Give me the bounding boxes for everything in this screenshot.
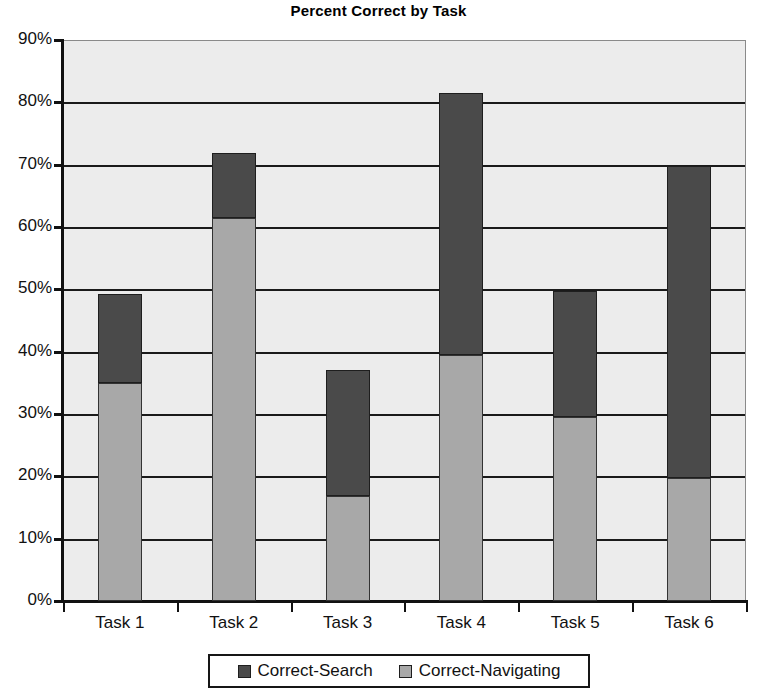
gridline	[64, 539, 745, 541]
x-axis-tick-mark	[63, 601, 65, 612]
y-axis-tick-label: 60%	[0, 216, 52, 236]
y-axis-tick-mark	[54, 600, 63, 603]
bar-segment-correct-search[interactable]	[553, 291, 597, 417]
x-axis-tick-mark	[632, 601, 634, 612]
y-axis-tick-mark	[54, 39, 63, 42]
gridline	[64, 476, 745, 478]
x-axis-category-label: Task 4	[404, 613, 518, 633]
legend-item-correct-search[interactable]: Correct-Search	[238, 661, 373, 681]
bar-segment-correct-navigating[interactable]	[439, 355, 483, 601]
y-axis-tick-label: 10%	[0, 528, 52, 548]
y-axis-tick-label: 0%	[0, 590, 52, 610]
bar-segment-correct-search[interactable]	[212, 153, 256, 218]
x-axis-category-label: Task 6	[632, 613, 746, 633]
gridline	[64, 165, 745, 167]
chart-container: Percent Correct by Task 0%10%20%30%40%50…	[0, 0, 757, 699]
bar-segment-correct-navigating[interactable]	[553, 417, 597, 601]
bar-segment-correct-search[interactable]	[667, 166, 711, 478]
y-axis-tick-mark	[54, 164, 63, 167]
y-axis-tick-label: 90%	[0, 29, 52, 49]
y-axis-tick-mark	[54, 288, 63, 291]
x-axis-category-label: Task 1	[63, 613, 177, 633]
legend-label-correct-navigating: Correct-Navigating	[419, 661, 561, 681]
bar-segment-correct-navigating[interactable]	[667, 478, 711, 601]
legend-item-correct-navigating[interactable]: Correct-Navigating	[399, 661, 561, 681]
x-axis-tick-mark	[404, 601, 406, 612]
plot-area	[63, 40, 746, 601]
y-axis-tick-label: 70%	[0, 154, 52, 174]
gridline	[64, 102, 745, 104]
x-axis-category-label: Task 5	[518, 613, 632, 633]
x-axis-tick-mark	[177, 601, 179, 612]
x-axis-tick-mark	[518, 601, 520, 612]
bar-stack[interactable]	[439, 40, 483, 601]
x-axis-category-label: Task 2	[177, 613, 291, 633]
y-axis-tick-mark	[54, 101, 63, 104]
bar-stack[interactable]	[553, 40, 597, 601]
chart-legend: Correct-Search Correct-Navigating	[208, 654, 590, 688]
chart-title: Percent Correct by Task	[0, 2, 757, 19]
y-axis-tick-mark	[54, 351, 63, 354]
bar-segment-correct-search[interactable]	[439, 93, 483, 355]
legend-label-correct-search: Correct-Search	[258, 661, 373, 681]
x-axis-tick-mark	[291, 601, 293, 612]
y-axis-line	[61, 39, 64, 603]
bar-stack[interactable]	[98, 40, 142, 601]
y-axis-tick-label: 30%	[0, 403, 52, 423]
y-axis-tick-label: 40%	[0, 341, 52, 361]
bar-segment-correct-search[interactable]	[326, 370, 370, 496]
bar-segment-correct-navigating[interactable]	[326, 496, 370, 601]
bar-segment-correct-navigating[interactable]	[212, 218, 256, 601]
y-axis-tick-mark	[54, 413, 63, 416]
bar-stack[interactable]	[667, 40, 711, 601]
y-axis-tick-label: 20%	[0, 465, 52, 485]
gridline	[64, 227, 745, 229]
y-axis-tick-label: 50%	[0, 278, 52, 298]
gridline	[64, 289, 745, 291]
bar-stack[interactable]	[326, 40, 370, 601]
bar-segment-correct-search[interactable]	[98, 294, 142, 383]
gridline	[64, 414, 745, 416]
bar-stack[interactable]	[212, 40, 256, 601]
bar-segment-correct-navigating[interactable]	[98, 383, 142, 601]
gridline	[64, 352, 745, 354]
y-axis-tick-mark	[54, 226, 63, 229]
legend-swatch-icon-correct-navigating	[399, 665, 412, 678]
y-axis-tick-mark	[54, 475, 63, 478]
x-axis-tick-mark	[746, 601, 748, 612]
x-axis-category-label: Task 3	[291, 613, 405, 633]
y-axis-tick-mark	[54, 538, 63, 541]
y-axis-tick-label: 80%	[0, 91, 52, 111]
legend-swatch-icon-correct-search	[238, 665, 251, 678]
